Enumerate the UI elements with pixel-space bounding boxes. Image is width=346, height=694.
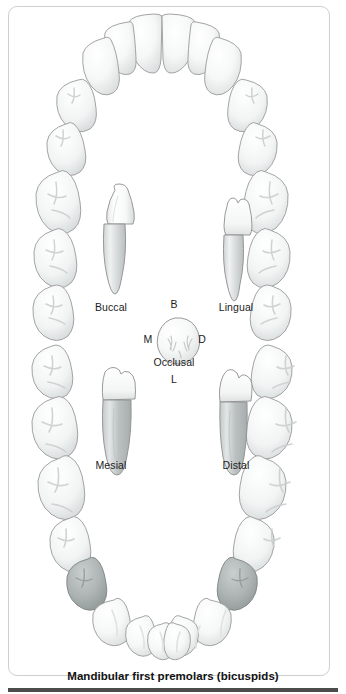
- label-occlusal: Occlusal: [153, 356, 194, 368]
- lower-arch-group: [32, 345, 292, 660]
- upper-arch-group: [33, 14, 291, 341]
- caption-divider-rule: [8, 688, 338, 692]
- label-lingual: Lingual: [219, 301, 254, 313]
- tooth-upper-second-molar-right: [247, 229, 290, 289]
- tooth-lower-second-molar-right: [246, 397, 292, 460]
- buccal-crown: [107, 184, 135, 224]
- tooth-lower-third-molar-left: [32, 345, 73, 399]
- tooth-upper-first-molar-left: [36, 171, 81, 234]
- label-surface-lingual-key: L: [171, 373, 177, 385]
- lingual-root: [223, 235, 243, 301]
- tooth-lower-first-molar-left: [38, 456, 85, 520]
- buccal-root: [103, 224, 125, 294]
- mesial-crown: [102, 368, 135, 401]
- tooth-view-buccal: [103, 184, 134, 294]
- figure-page: Buccal Lingual Mesial Distal Occlusal B …: [0, 0, 346, 694]
- tooth-upper-first-premolar-left: [57, 79, 97, 132]
- tooth-view-lingual: [223, 198, 252, 301]
- label-surface-buccal-key: B: [170, 298, 177, 310]
- figure-caption-bar: Mandibular first premolars (bicuspids): [8, 664, 338, 688]
- distal-crown: [219, 370, 252, 402]
- label-buccal: Buccal: [95, 301, 127, 313]
- lingual-crown: [224, 198, 252, 235]
- figure-caption: Mandibular first premolars (bicuspids): [67, 670, 279, 682]
- label-surface-distal-key: D: [198, 333, 206, 345]
- tooth-upper-third-molar-left: [33, 285, 74, 341]
- label-distal: Distal: [223, 459, 250, 471]
- tooth-lower-second-molar-left: [32, 397, 78, 460]
- tooth-upper-second-molar-left: [34, 229, 77, 289]
- arch-diagram-svg: [8, 6, 330, 676]
- label-mesial: Mesial: [96, 459, 127, 471]
- tooth-upper-first-premolar-right: [228, 79, 268, 132]
- dental-arch-illustration: Buccal Lingual Mesial Distal Occlusal B …: [8, 6, 330, 676]
- label-surface-mesial-key: M: [144, 333, 153, 345]
- tooth-upper-third-molar-right: [250, 285, 291, 341]
